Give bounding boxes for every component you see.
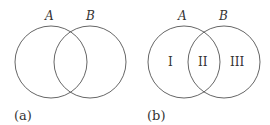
venn-diagrams: A B (a) A B I II III (b) bbox=[0, 0, 270, 125]
panel-b: A B I II III (b) bbox=[147, 9, 260, 123]
set-label-a: A bbox=[44, 9, 54, 23]
set-label-b: B bbox=[85, 9, 95, 23]
panel-a: A B (a) bbox=[14, 9, 126, 123]
region-label-i: I bbox=[168, 55, 173, 69]
caption-b: (b) bbox=[147, 108, 165, 123]
region-label-ii: II bbox=[198, 55, 208, 69]
circle-a bbox=[148, 26, 220, 98]
circle-b bbox=[54, 26, 126, 98]
circle-a bbox=[15, 26, 87, 98]
set-label-a: A bbox=[177, 9, 187, 23]
caption-a: (a) bbox=[14, 108, 32, 123]
set-label-b: B bbox=[218, 9, 228, 23]
region-label-iii: III bbox=[230, 55, 244, 69]
